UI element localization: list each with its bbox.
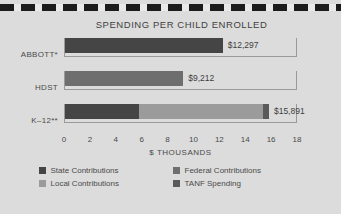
x-axis-title: $ THOUSANDS — [64, 148, 297, 157]
legend-swatch-icon — [39, 180, 46, 187]
legend-label: State Contributions — [51, 166, 119, 175]
decorative-dashed-rule — [0, 4, 341, 11]
bar-segment — [65, 38, 223, 53]
bar-segment — [65, 104, 139, 119]
legend-item: Federal Contributions — [173, 166, 303, 175]
x-axis-tick-label: 4 — [114, 135, 118, 144]
chart-legend: State ContributionsFederal Contributions… — [0, 166, 341, 188]
legend-label: TANF Spending — [185, 179, 241, 188]
legend-label: Federal Contributions — [185, 166, 261, 175]
bar-track: $15,891 — [64, 104, 297, 123]
category-label: HDST — [0, 83, 58, 92]
legend-item: State Contributions — [39, 166, 169, 175]
spending-per-child-chart: SPENDING PER CHILD ENROLLED ABBOTT*$12,2… — [0, 14, 341, 214]
bar-segment — [65, 71, 183, 86]
bar-value-label: $12,297 — [228, 40, 259, 50]
x-axis-tick-label: 8 — [165, 135, 169, 144]
x-axis-tick-label: 14 — [241, 135, 250, 144]
x-axis-tick-label: 18 — [293, 135, 302, 144]
plot-area: ABBOTT*$12,297HDST$9,212K–12**$15,891 — [0, 37, 341, 135]
bar-segment — [263, 104, 269, 119]
x-axis-tick-label: 2 — [88, 135, 92, 144]
x-axis-tick-label: 12 — [215, 135, 224, 144]
bar-row: HDST$9,212 — [0, 70, 341, 97]
stacked-bar — [65, 71, 183, 86]
x-axis: 024681012141618 — [64, 135, 297, 149]
chart-title: SPENDING PER CHILD ENROLLED — [22, 19, 341, 30]
bar-row: K–12**$15,891 — [0, 103, 341, 130]
category-label: ABBOTT* — [0, 50, 58, 59]
legend-item: Local Contributions — [39, 179, 169, 188]
legend-item: TANF Spending — [173, 179, 303, 188]
bar-value-label: $15,891 — [274, 106, 305, 116]
bar-value-label: $9,212 — [188, 73, 214, 83]
bar-track: $12,297 — [64, 38, 297, 57]
bar-row: ABBOTT*$12,297 — [0, 37, 341, 64]
stacked-bar — [65, 38, 223, 53]
category-label: K–12** — [0, 116, 58, 125]
legend-swatch-icon — [173, 167, 180, 174]
bar-track: $9,212 — [64, 71, 297, 90]
legend-swatch-icon — [39, 167, 46, 174]
x-axis-tick-label: 6 — [139, 135, 143, 144]
x-axis-tick-label: 0 — [62, 135, 66, 144]
x-axis-tick-label: 10 — [189, 135, 198, 144]
bar-segment — [139, 104, 263, 119]
legend-label: Local Contributions — [51, 179, 119, 188]
x-axis-tick-label: 16 — [267, 135, 276, 144]
stacked-bar — [65, 104, 269, 119]
legend-swatch-icon — [173, 180, 180, 187]
